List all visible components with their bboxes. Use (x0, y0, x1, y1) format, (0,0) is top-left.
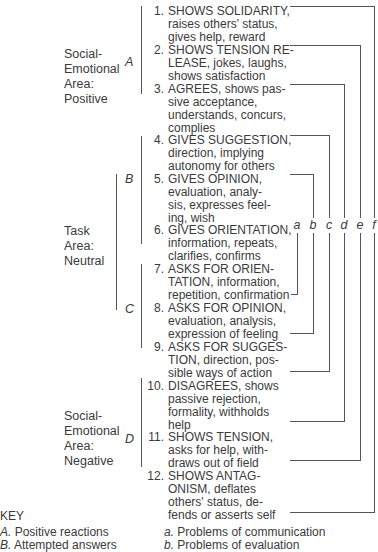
area-line: Task (64, 224, 104, 239)
group-b-bar (141, 136, 142, 244)
key-text: Positive reactions (15, 525, 109, 539)
area-line: Emotional (64, 424, 120, 439)
group-d-bar (141, 378, 142, 467)
bracket-c-bottom (290, 371, 330, 372)
area-line: Area: (64, 77, 120, 92)
bracket-e-top (290, 45, 360, 46)
item-number: 7. (147, 263, 164, 276)
item-text: ASKS FOR ORIEN- TATION, information, rep… (168, 263, 289, 302)
bracket-a-vertical (297, 225, 298, 295)
item-text: GIVES ORIENTATION, information, repeats,… (168, 224, 292, 263)
key-title: KEY (0, 509, 24, 523)
item-number: 9. (147, 341, 164, 354)
bracket-c-vertical (329, 135, 330, 372)
group-letter-a: A (125, 55, 133, 70)
key-letter: b. (164, 538, 174, 552)
key-entry-b-upper: B. Attempted answers (0, 539, 117, 552)
area-line: Social- (64, 409, 120, 424)
key-letter: A. (0, 525, 11, 539)
key-letter: B. (0, 538, 11, 552)
bracket-label-f: f (368, 218, 378, 233)
area-label-social-emotional-positive: Social- Emotional Area: Positive (64, 47, 120, 107)
bracket-e-bottom (290, 460, 361, 461)
bracket-label-a: a (291, 218, 303, 233)
key-text: Attempted answers (14, 538, 117, 552)
bracket-label-e: e (354, 218, 366, 233)
bracket-label-c: c (323, 218, 335, 233)
item-text: AGREES, shows pas- sive acceptance, unde… (168, 83, 286, 135)
area-line: Negative (64, 454, 120, 469)
bracket-label-d: d (338, 218, 350, 233)
area-line: Social- (64, 47, 120, 62)
bracket-f-vertical (374, 6, 375, 513)
key-text: Problems of evaluation (177, 538, 299, 552)
item-number: 3. (147, 83, 164, 96)
area-line: Positive (64, 92, 120, 107)
group-letter-c: C (125, 302, 134, 317)
area-line: Emotional (64, 62, 120, 77)
group-c-bar (141, 264, 142, 348)
item-number: 8. (147, 302, 164, 315)
bracket-d-vertical (344, 84, 345, 422)
bracket-c-top (290, 135, 329, 136)
bracket-d-top (290, 84, 344, 85)
item-number: 10. (147, 380, 164, 393)
bracket-b-vertical (313, 174, 314, 334)
item-number: 12. (147, 470, 164, 483)
area-line: Area: (64, 239, 104, 254)
bracket-f-top (290, 6, 375, 7)
item-text: SHOWS TENSION RE- LEASE, jokes, laughs, … (168, 44, 294, 83)
task-area-bar (116, 174, 117, 310)
key-entry-b-lower: b. Problems of evaluation (164, 539, 299, 552)
area-label-task-neutral: Task Area: Neutral (64, 224, 104, 269)
item-text: SHOWS SOLIDARITY, raises others' status,… (168, 5, 290, 44)
area-label-social-emotional-negative: Social- Emotional Area: Negative (64, 409, 120, 469)
item-text: SHOWS ANTAG- ONISM, deflates others' sta… (168, 470, 275, 522)
item-number: 1. (147, 5, 164, 18)
bracket-f-bottom (290, 512, 375, 513)
group-letter-b: B (125, 172, 133, 187)
bracket-e-vertical (360, 45, 361, 461)
bracket-b-top (290, 174, 313, 175)
item-text: GIVES SUGGESTION, direction, implying au… (168, 134, 291, 173)
area-line: Neutral (64, 254, 104, 269)
item-text: SHOWS TENSION, asks for help, with- draw… (168, 431, 273, 470)
bracket-a-bottom (291, 294, 298, 295)
item-number: 2. (147, 44, 164, 57)
item-text: ASKS FOR OPINION, evaluation, analysis, … (168, 302, 286, 341)
group-letter-d: D (125, 432, 134, 447)
group-a-bar (141, 6, 142, 94)
item-text: GIVES OPINION, evaluation, analy- sis, e… (168, 173, 271, 225)
item-number: 6. (147, 224, 164, 237)
area-line: Area: (64, 439, 120, 454)
item-text: DISAGREES, shows passive rejection, form… (168, 380, 279, 432)
item-number: 5. (147, 173, 164, 186)
key-text: Problems of communication (177, 525, 325, 539)
key-letter: a. (164, 525, 174, 539)
item-text: ASKS FOR SUGGES- TION, direction, pos- s… (168, 341, 287, 380)
bracket-label-b: b (307, 218, 319, 233)
item-number: 11. (147, 431, 164, 444)
bracket-d-bottom (290, 421, 345, 422)
bracket-b-bottom (290, 333, 314, 334)
item-number: 4. (147, 134, 164, 147)
